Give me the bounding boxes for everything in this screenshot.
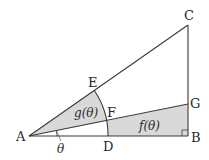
label-G: G [190,96,200,111]
label-B: B [191,130,201,145]
label-D: D [103,139,113,154]
label-C: C [184,8,194,23]
label-A: A [15,129,26,144]
label-g-theta: g(θ) [74,106,99,120]
label-theta: θ [57,142,65,156]
geometry-diagram: A B C D E F G g(θ) f(θ) θ [0,0,209,160]
label-f-theta: f(θ) [138,119,160,133]
label-E: E [88,75,98,90]
label-F: F [107,105,116,120]
